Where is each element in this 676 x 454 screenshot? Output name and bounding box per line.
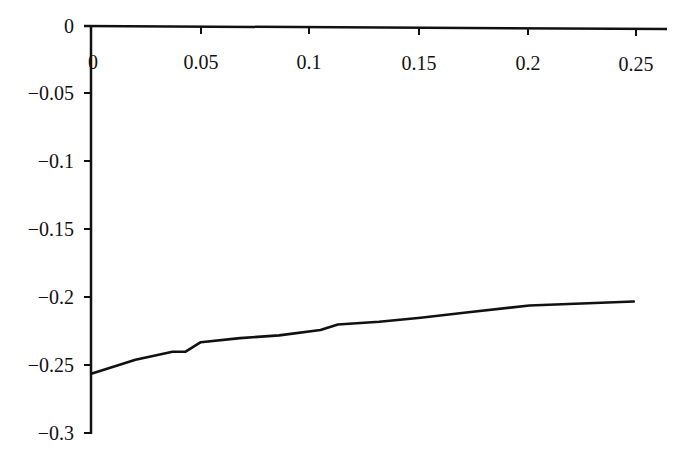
x-tick-label: 0 [88, 51, 98, 73]
x-tick-label: 0.15 [402, 52, 437, 74]
y-tick-label: −0.15 [28, 218, 74, 240]
data-line [92, 302, 634, 374]
y-tick-label: −0.05 [28, 82, 74, 104]
line-chart: 0 −0.05 −0.1 −0.15 −0.2 −0.25 −0.3 0 0.0… [0, 0, 676, 454]
y-tick-label: −0.3 [38, 422, 74, 444]
x-tick-label: 0.1 [297, 51, 322, 73]
y-tick-label: 0 [64, 15, 74, 37]
x-tick-label: 0.2 [516, 52, 541, 74]
y-tick-label: −0.2 [38, 286, 74, 308]
y-tick-label: −0.25 [28, 354, 74, 376]
y-tick-label: −0.1 [38, 150, 74, 172]
y-tick-labels: 0 −0.05 −0.1 −0.15 −0.2 −0.25 −0.3 [28, 15, 74, 444]
x-tick-label: 0.25 [619, 53, 654, 75]
x-tick-labels: 0 0.05 0.1 0.15 0.2 0.25 [88, 51, 654, 75]
x-axis [84, 26, 667, 29]
x-tick-label: 0.05 [184, 51, 219, 73]
